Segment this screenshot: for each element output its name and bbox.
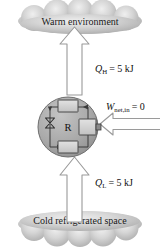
heat-absorbed-value: = 5 kJ	[108, 177, 133, 188]
work-input-subscript: net,in	[114, 106, 130, 113]
heat-rejected-subscript: H	[102, 68, 107, 75]
heat-rejected-arrow	[60, 27, 89, 95]
heat-absorbed-subscript: L	[102, 182, 106, 189]
heat-rejected-arrow-shape	[60, 27, 89, 95]
work-input-value: = 0	[132, 101, 145, 112]
warm-environment-label: Warm environment	[41, 16, 118, 27]
warm-environment-cloud: Warm environment	[18, 0, 142, 34]
heat-rejected-label: QH= 5 kJ	[95, 63, 134, 75]
refrigerator-device: R	[38, 97, 101, 157]
condenser-box	[58, 100, 78, 112]
evaporator-box	[58, 141, 78, 153]
heat-rejected-value: = 5 kJ	[109, 63, 134, 74]
device-label: R	[64, 122, 71, 133]
diagram-canvas: Warm environment Cold refrigerated space	[0, 0, 160, 247]
refrigerator-cycle-diagram: Warm environment Cold refrigerated space	[0, 0, 160, 247]
work-input-arrow-shape	[100, 113, 160, 135]
work-input-label: Wnet,in= 0	[106, 101, 145, 113]
heat-absorbed-label: QL= 5 kJ	[95, 177, 133, 189]
work-input-arrow	[100, 113, 160, 135]
compressor-shaft	[96, 124, 101, 130]
